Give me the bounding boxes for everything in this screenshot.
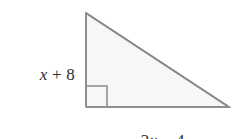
vertical-leg-constant: 8 bbox=[66, 65, 75, 84]
vertical-leg-operator-symbol: + bbox=[52, 65, 62, 84]
vertical-leg-variable: x bbox=[40, 65, 48, 84]
horizontal-leg-label: 2x − 4 bbox=[123, 115, 185, 139]
geometry-figure: x + 8 2x − 4 bbox=[0, 0, 240, 139]
horizontal-leg-constant: 4 bbox=[176, 131, 185, 139]
vertical-leg-label: x + 8 bbox=[22, 49, 75, 100]
horizontal-leg-operator-symbol: − bbox=[162, 131, 172, 139]
horizontal-leg-coefficient: 2 bbox=[141, 131, 150, 139]
